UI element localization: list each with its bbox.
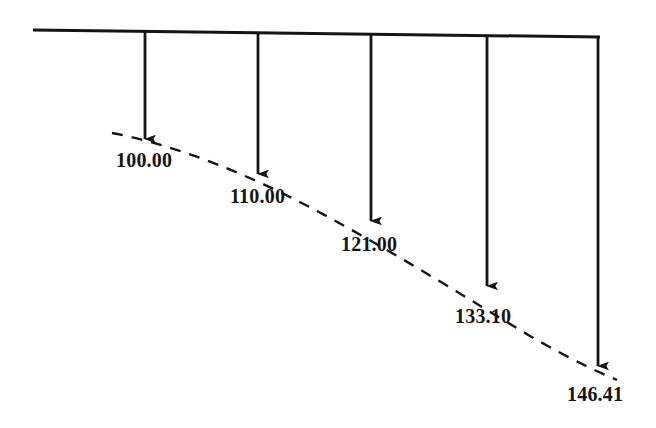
growth-cash-flow-diagram: 100.00 110.00 121.00 133.10 146.41 [0,0,656,428]
dashed-growth-curve [112,133,617,380]
value-label-3: 121.00 [341,234,397,254]
value-label-4: 133.10 [455,306,511,326]
value-label-1: 100.00 [116,150,172,170]
value-label-5: 146.41 [567,384,623,404]
value-label-2: 110.00 [230,186,285,206]
diagram-canvas [0,0,656,428]
horizontal-timeline [33,30,600,37]
